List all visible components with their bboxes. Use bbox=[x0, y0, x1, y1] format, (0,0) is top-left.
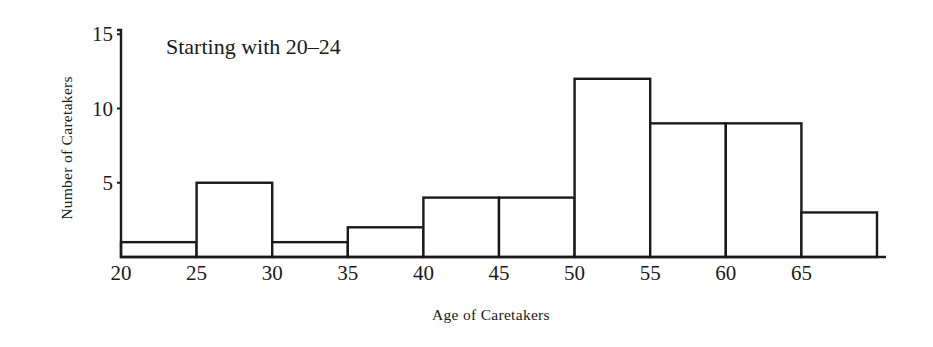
histogram-bar bbox=[499, 198, 575, 257]
y-axis-label: Number of Caretakers bbox=[58, 76, 75, 220]
histogram-bar bbox=[801, 212, 877, 257]
x-tick-label: 30 bbox=[262, 261, 283, 285]
y-tick-label: 5 bbox=[103, 171, 114, 195]
histogram-bar bbox=[575, 79, 651, 257]
histogram-bar bbox=[197, 183, 273, 257]
x-axis-label: Age of Caretakers bbox=[432, 306, 550, 323]
histogram-bar bbox=[650, 123, 726, 257]
y-axis-ticks: 51015 bbox=[92, 22, 121, 195]
x-axis-ticks: 20253035404550556065 bbox=[111, 261, 812, 285]
x-tick-label: 45 bbox=[489, 261, 510, 285]
histogram-chart: 51015 20253035404550556065 Starting with… bbox=[0, 0, 933, 347]
x-tick-label: 65 bbox=[791, 261, 812, 285]
y-tick-label: 10 bbox=[92, 97, 113, 121]
x-tick-label: 20 bbox=[111, 261, 132, 285]
x-tick-label: 50 bbox=[564, 261, 585, 285]
x-tick-label: 60 bbox=[715, 261, 736, 285]
x-tick-label: 55 bbox=[640, 261, 661, 285]
histogram-bar bbox=[423, 198, 499, 257]
x-tick-label: 25 bbox=[186, 261, 207, 285]
x-tick-label: 35 bbox=[337, 261, 358, 285]
y-tick-label: 15 bbox=[92, 22, 113, 46]
histogram-bar bbox=[726, 123, 802, 257]
histogram-bar bbox=[348, 227, 424, 257]
chart-title: Starting with 20–24 bbox=[166, 34, 341, 59]
x-tick-label: 40 bbox=[413, 261, 434, 285]
histogram-bars bbox=[121, 79, 877, 257]
histogram-bar bbox=[121, 242, 197, 257]
histogram-bar bbox=[272, 242, 348, 257]
